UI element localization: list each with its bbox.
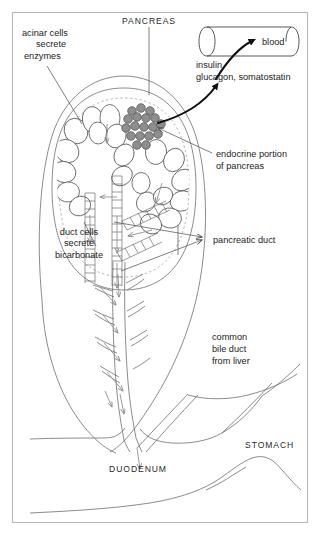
islet-cell	[142, 114, 151, 123]
common-bile-duct-right	[146, 395, 198, 452]
stomach-wall-upper	[188, 374, 297, 399]
vessel-left-cap	[199, 27, 215, 56]
islet-cell	[137, 104, 146, 113]
islet-cell	[133, 141, 142, 150]
islet-cell	[145, 132, 154, 141]
common-bile-duct-left	[137, 394, 188, 448]
duodenum-upper-wall-right	[140, 396, 262, 443]
islet-cell	[140, 123, 149, 132]
islet-cell	[154, 130, 163, 139]
label-pancreas: PANCREAS	[122, 16, 176, 26]
ampulla-of-vater	[124, 383, 272, 469]
acinar-lobule	[131, 172, 150, 194]
gi-tract	[30, 364, 301, 513]
label-bile-line2: bile duct	[212, 344, 247, 354]
islet-to-circulation-arrow	[158, 86, 216, 123]
islet-cell	[142, 141, 151, 150]
label-pancreatic-duct: pancreatic duct	[213, 235, 276, 245]
diagram-canvas: PANCREAS acinar cells secrete enzymes bl…	[0, 0, 320, 535]
duct-cell-rungs	[117, 237, 154, 261]
duct-branch	[131, 335, 148, 346]
duct-branch	[133, 358, 150, 369]
label-acinar-line1: acinar cells	[22, 28, 68, 38]
islet-cell	[131, 122, 140, 131]
duodenum-upper-wall-left	[30, 428, 125, 439]
duct-branch	[128, 306, 145, 317]
duct-branch	[95, 337, 116, 347]
common-bile-duct-far	[222, 383, 272, 433]
duct-branch	[127, 301, 144, 311]
label-duct-cells-line3: bicarbonate	[55, 250, 103, 260]
arrow-down-icon	[105, 391, 112, 407]
arrow-down-icon	[118, 274, 119, 297]
label-hormones-line2: glucagon, somatostatin	[196, 72, 291, 82]
stomach-lower-curve	[206, 467, 246, 490]
vessel-right-edge	[286, 27, 291, 42]
hormone-secretion-arrows	[158, 41, 252, 123]
label-acinar-line2: secrete	[36, 39, 66, 49]
islet-cell	[136, 132, 145, 141]
branching-duct-tree	[93, 262, 150, 440]
arrow-down-icon	[120, 394, 124, 414]
duct-cell-wall	[117, 233, 162, 261]
islet-cell	[124, 115, 133, 124]
stomach-pylorus-curve	[262, 364, 300, 396]
label-bile-line1: common	[212, 332, 247, 342]
label-duodenum: DUODENUM	[109, 464, 167, 474]
islet-cell	[133, 113, 142, 122]
label-hormones-line1: insulin	[196, 60, 222, 70]
islet-cell	[122, 124, 131, 133]
label-endocrine-line2: of pancreas	[216, 161, 264, 171]
islet-cell	[127, 132, 136, 141]
duct-branch	[130, 330, 147, 340]
label-acinar-line3: enzymes	[24, 51, 61, 61]
vessel-right-cap	[291, 27, 299, 56]
label-bile-line3: from liver	[212, 356, 250, 366]
label-stomach: STOMACH	[245, 440, 294, 450]
pancreas-outline-right	[42, 300, 116, 453]
label-duct-cells-line2: secrete	[64, 238, 94, 248]
duct-entry-wall	[124, 440, 130, 452]
pancreas-diagram: PANCREAS acinar cells secrete enzymes bl…	[0, 0, 320, 535]
label-duct-cells-line1: duct cells	[60, 227, 99, 237]
label-blood: blood	[262, 37, 284, 47]
label-endocrine-line1: endocrine portion	[216, 149, 287, 159]
